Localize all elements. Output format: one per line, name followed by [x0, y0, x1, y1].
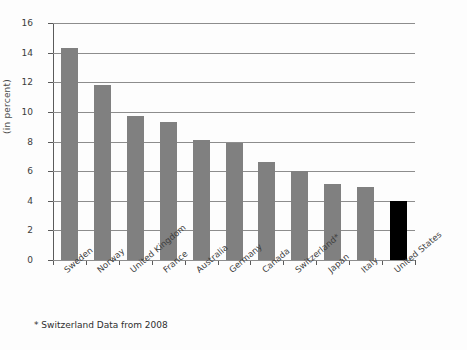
- bar-chart: (in percent) 1614121086420 SwedenNorwayU…: [0, 0, 467, 350]
- x-tick-mark: [382, 261, 383, 265]
- x-tick-mark: [415, 261, 416, 265]
- x-tick-mark: [283, 261, 284, 265]
- gridline: [53, 23, 415, 24]
- bar: [226, 143, 243, 260]
- plot-area: [53, 23, 415, 260]
- y-tick-label: 10: [17, 107, 33, 117]
- y-tick-label: 14: [17, 48, 33, 58]
- y-tick-label: 12: [17, 77, 33, 87]
- y-tick-label: 0: [17, 255, 33, 265]
- y-tick: 16: [0, 23, 53, 24]
- x-tick-mark: [349, 261, 350, 265]
- bar: [127, 116, 144, 260]
- bar: [390, 201, 407, 260]
- y-tick: 10: [0, 112, 53, 113]
- y-tick: 4: [0, 201, 53, 202]
- bar: [61, 48, 78, 260]
- y-tick-label: 2: [17, 225, 33, 235]
- y-tick-label: 6: [17, 166, 33, 176]
- y-tick: 2: [0, 230, 53, 231]
- y-tick: 0: [0, 260, 53, 261]
- chart-footnote: * Switzerland Data from 2008: [34, 320, 168, 330]
- y-tick: 8: [0, 142, 53, 143]
- x-tick-mark: [53, 261, 54, 265]
- y-tick-label: 4: [17, 196, 33, 206]
- x-tick-mark: [218, 261, 219, 265]
- x-tick-mark: [316, 261, 317, 265]
- y-axis-title: (in percent): [2, 34, 12, 134]
- bar: [357, 187, 374, 260]
- y-tick: 14: [0, 53, 53, 54]
- x-tick-mark: [185, 261, 186, 265]
- bar: [291, 171, 308, 260]
- x-tick-mark: [86, 261, 87, 265]
- bar: [193, 140, 210, 260]
- bar: [94, 85, 111, 260]
- y-tick-label: 16: [17, 18, 33, 28]
- x-tick-mark: [250, 261, 251, 265]
- y-tick: 6: [0, 171, 53, 172]
- y-tick-label: 8: [17, 137, 33, 147]
- y-tick: 12: [0, 82, 53, 83]
- gridline: [53, 53, 415, 54]
- gridline: [53, 82, 415, 83]
- x-tick-mark: [119, 261, 120, 265]
- x-tick-mark: [152, 261, 153, 265]
